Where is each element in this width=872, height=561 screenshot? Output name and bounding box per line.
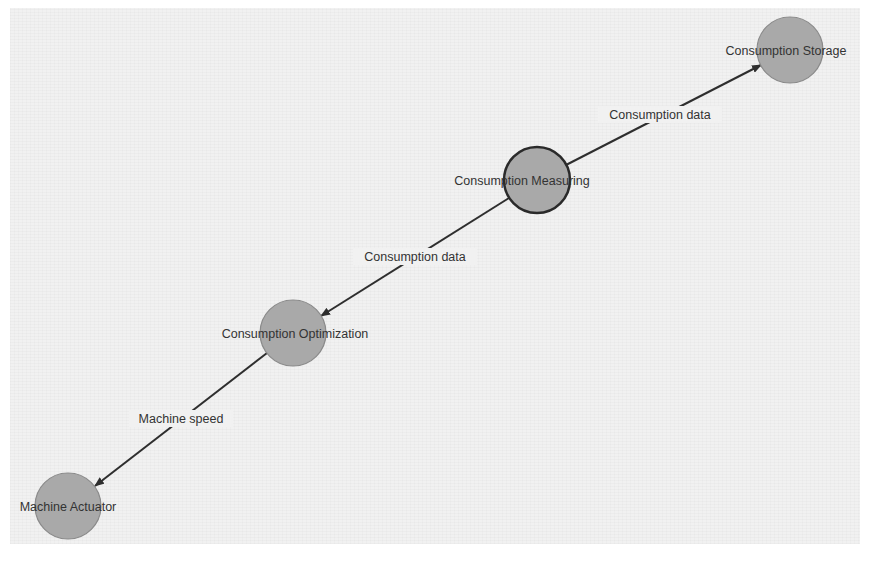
node-consumption-measuring[interactable]: Consumption Measuring [454, 147, 590, 213]
graph-svg: Consumption data Consumption data Machin… [0, 0, 872, 561]
node-label: Machine Actuator [20, 500, 117, 514]
node-label: Consumption Measuring [454, 174, 590, 188]
edge-label: Consumption data [364, 250, 466, 264]
edge-optimization-to-actuator[interactable]: Machine speed [95, 353, 267, 486]
node-label: Consumption Optimization [222, 327, 369, 341]
edge-measuring-to-storage[interactable]: Consumption data [566, 65, 761, 165]
edge-measuring-to-optimization[interactable]: Consumption data [321, 198, 509, 316]
node-label: Consumption Storage [726, 44, 847, 58]
node-consumption-optimization[interactable]: Consumption Optimization [222, 300, 369, 366]
node-machine-actuator[interactable]: Machine Actuator [20, 473, 117, 539]
edge-label: Consumption data [609, 108, 711, 122]
edge-label: Machine speed [139, 412, 224, 426]
